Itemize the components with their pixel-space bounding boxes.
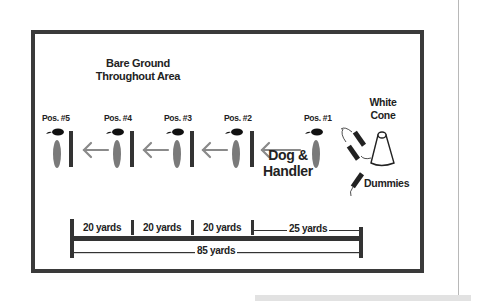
dog-handler-label-line1: Dog &	[258, 147, 318, 163]
position-label-3: Pos. #3	[164, 113, 192, 123]
dog-icon-4	[106, 129, 124, 136]
scale-end-tick	[359, 227, 363, 258]
dog-icon-3	[166, 129, 184, 136]
white-cone-icon	[361, 132, 394, 166]
handler-icon-4	[113, 140, 121, 168]
handler-icon-5	[53, 140, 61, 168]
dummy-icons	[341, 128, 366, 196]
white-cone-label: White Cone	[361, 96, 405, 122]
dog-icon-1	[305, 129, 323, 136]
dummies-label: Dummies	[364, 177, 409, 189]
field-title-line2: Throughout Area	[88, 70, 188, 83]
scale-segment-label-2: 20 yards	[143, 222, 181, 233]
field-diagram-graphics	[0, 0, 479, 303]
scale-total-label: 85 yards	[195, 245, 237, 256]
handler-icon-3	[173, 140, 181, 168]
arrow-left-icon-2-to-3	[203, 143, 227, 157]
position-label-1: Pos. #1	[304, 113, 332, 123]
position-marker-3	[190, 131, 194, 167]
position-label-2: Pos. #2	[224, 113, 252, 123]
scale-tick-40	[191, 220, 194, 235]
position-marker-5	[69, 131, 73, 167]
dummy-icon-3	[350, 172, 364, 196]
arrow-left-icon-3-to-4	[144, 143, 168, 157]
handler-icon-2	[232, 140, 240, 168]
scale-bar-thick	[72, 236, 361, 241]
field-title: Bare Ground Throughout Area	[88, 57, 188, 83]
field-title-line1: Bare Ground	[88, 57, 188, 70]
position-marker-2	[250, 131, 254, 167]
scale-segment-label-3: 20 yards	[203, 222, 241, 233]
position-marker-4	[130, 131, 134, 167]
dog-icons	[46, 129, 323, 136]
white-cone-label-line1: White	[361, 96, 405, 109]
scale-tick-60	[251, 220, 254, 235]
position-label-5: Pos. #5	[42, 113, 70, 123]
scale-segment-label-4: 25 yards	[287, 223, 329, 234]
scale-tick-20	[131, 220, 134, 235]
white-cone-label-line2: Cone	[361, 109, 405, 122]
dummy-icon-1	[341, 128, 366, 147]
dog-icon-5	[46, 129, 64, 136]
dog-handler-label-line2: Handler	[258, 163, 318, 179]
dog-icon-2	[225, 129, 243, 136]
scale-segment-label-1: 20 yards	[83, 222, 121, 233]
arrow-left-icon-4-to-5	[84, 143, 108, 157]
position-label-4: Pos. #4	[104, 113, 132, 123]
dog-handler-label: Dog & Handler	[258, 147, 318, 179]
